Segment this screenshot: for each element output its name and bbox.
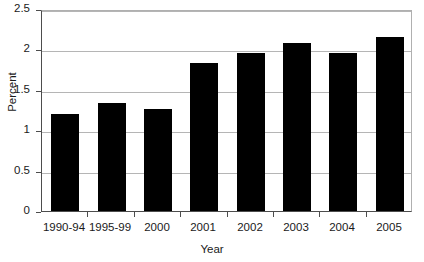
x-tick-label-2005: 2005 [366, 221, 412, 233]
gridline-2 [42, 51, 411, 52]
bar-chart: Percent 00.511.522.5 1990-941995-9920002… [0, 0, 424, 262]
bar-2003 [283, 43, 311, 211]
x-tick-label-1995-99: 1995-99 [87, 221, 133, 233]
x-tick-label-1990-94: 1990-94 [41, 221, 87, 233]
x-tick-mark-7 [366, 212, 367, 217]
x-tick-label-2004: 2004 [319, 221, 365, 233]
gridline-2.5 [42, 11, 411, 12]
y-tick-label-2: 2 [0, 42, 30, 54]
y-tick-mark-0 [36, 212, 41, 213]
x-tick-label-2000: 2000 [134, 221, 180, 233]
bar-1995-99 [98, 103, 126, 211]
y-tick-label-0: 0 [0, 204, 30, 216]
x-tick-mark-1 [87, 212, 88, 217]
x-tick-mark-3 [180, 212, 181, 217]
bar-2002 [237, 53, 265, 211]
x-tick-mark-6 [319, 212, 320, 217]
bar-2004 [329, 53, 357, 211]
bar-2005 [376, 37, 404, 211]
x-axis-title: Year [0, 243, 424, 255]
y-tick-label-1.5: 1.5 [0, 83, 30, 95]
y-tick-label-0.5: 0.5 [0, 164, 30, 176]
bar-2001 [190, 63, 218, 211]
plot-area [41, 10, 412, 212]
bar-2000 [144, 109, 172, 211]
x-tick-mark-2 [134, 212, 135, 217]
x-tick-label-2002: 2002 [227, 221, 273, 233]
x-tick-label-2003: 2003 [273, 221, 319, 233]
y-tick-label-2.5: 2.5 [0, 2, 30, 14]
y-tick-label-1: 1 [0, 123, 30, 135]
x-tick-mark-5 [273, 212, 274, 217]
x-tick-label-2001: 2001 [180, 221, 226, 233]
x-tick-mark-4 [227, 212, 228, 217]
bar-1990-94 [51, 114, 79, 211]
